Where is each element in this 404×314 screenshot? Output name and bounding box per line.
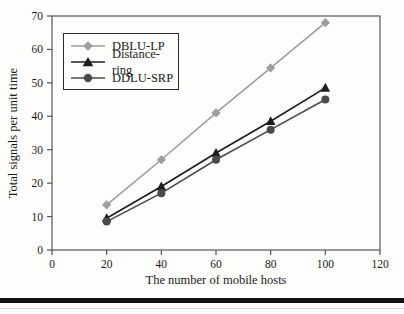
circle-marker-icon <box>70 72 108 84</box>
series-marker-distance-ring <box>266 116 276 125</box>
y-tick-label: 50 <box>32 77 44 89</box>
y-tick-label: 0 <box>37 244 43 256</box>
x-tick-label: 20 <box>101 258 113 270</box>
x-tick-label: 60 <box>210 258 222 270</box>
y-tick-label: 40 <box>32 110 44 122</box>
x-tick-label: 80 <box>265 258 277 270</box>
x-axis-label: The number of mobile hosts <box>52 273 380 288</box>
series-marker-ddlu-srp <box>103 218 111 226</box>
y-axis-label: Total signals per unit time <box>6 68 21 198</box>
series-marker-ddlu-srp <box>212 156 220 164</box>
triangle-marker-icon <box>70 56 108 68</box>
y-tick-label: 70 <box>32 10 44 22</box>
x-tick-label: 120 <box>371 258 389 270</box>
y-tick-label: 30 <box>32 144 44 156</box>
legend: DBLU-LP Distance-ring DDLU-SRP <box>63 33 179 90</box>
series-marker-distance-ring <box>157 181 167 190</box>
legend-item-distance-ring: Distance-ring <box>70 54 178 70</box>
legend-item-ddlu-srp: DDLU-SRP <box>70 70 178 86</box>
y-tick-label: 60 <box>32 43 44 55</box>
x-tick-label: 40 <box>156 258 168 270</box>
series-marker-distance-ring <box>321 83 331 92</box>
page-divider-shadow <box>0 308 404 309</box>
x-tick-label: 0 <box>49 258 55 270</box>
series-marker-distance-ring <box>211 148 221 157</box>
legend-label: DDLU-SRP <box>108 70 173 86</box>
diamond-marker-icon <box>70 40 108 52</box>
y-tick-label: 20 <box>32 177 44 189</box>
figure: 020406080100120010203040506070 Total sig… <box>0 0 404 314</box>
series-marker-ddlu-srp <box>321 96 329 104</box>
series-marker-ddlu-srp <box>157 189 165 197</box>
chart-svg: 020406080100120010203040506070 <box>0 0 404 270</box>
page-divider-rule <box>0 298 404 303</box>
series-marker-ddlu-srp <box>267 126 275 134</box>
y-tick-label: 10 <box>32 211 44 223</box>
x-tick-label: 100 <box>317 258 335 270</box>
